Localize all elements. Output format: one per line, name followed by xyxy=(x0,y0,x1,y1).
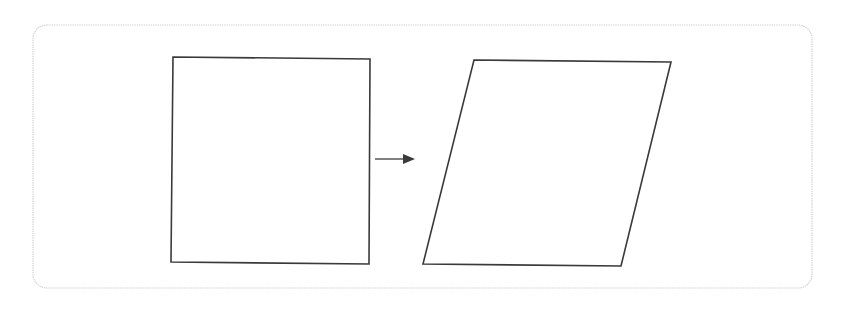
target-parallelogram xyxy=(423,60,671,266)
arrow-head-icon xyxy=(403,154,415,164)
diagram-canvas xyxy=(0,0,842,311)
frame-border xyxy=(33,25,812,288)
source-square xyxy=(171,57,370,264)
diagram-svg xyxy=(0,0,842,311)
transform-arrow xyxy=(375,154,415,164)
